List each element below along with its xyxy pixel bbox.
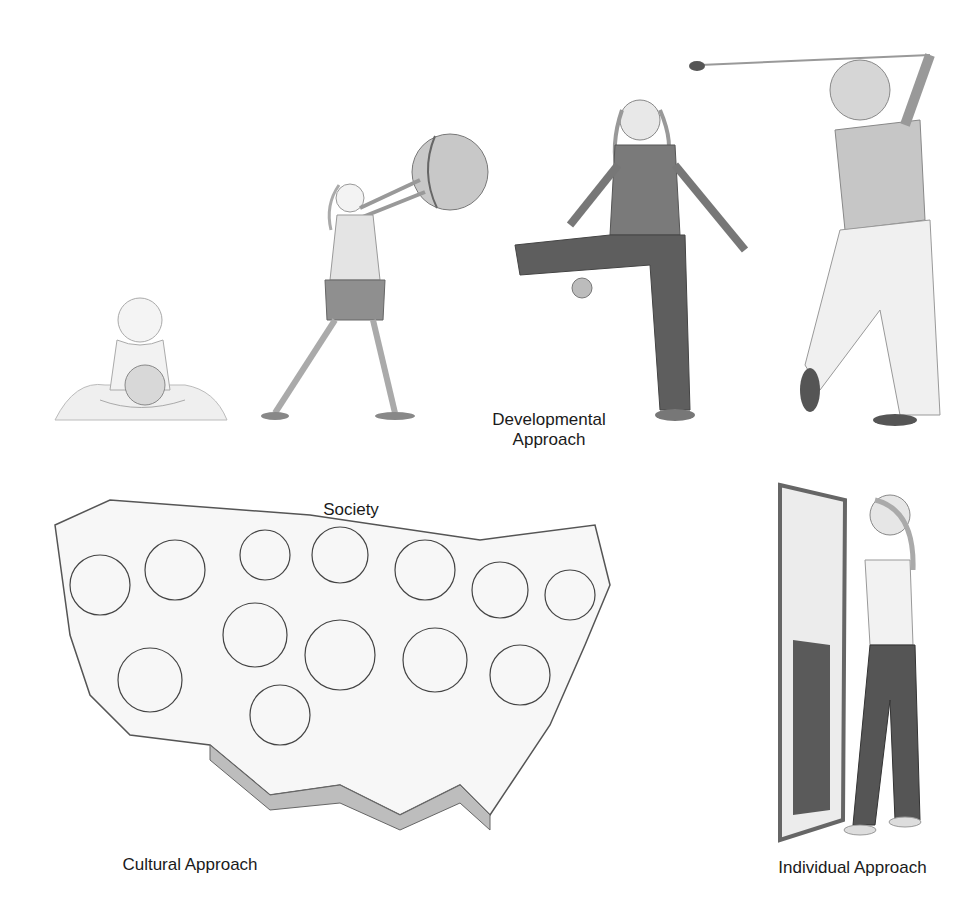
- cultural-approach-label: Cultural Approach: [100, 855, 280, 875]
- mirror-figure: [775, 480, 935, 850]
- developmental-approach-label: Developmental Approach: [474, 410, 624, 450]
- child-figure: [255, 130, 495, 430]
- society-label: Society: [306, 500, 396, 520]
- society-map-figure: [40, 485, 620, 850]
- infant-figure: [45, 280, 235, 430]
- developmental-label-line1: Developmental: [474, 410, 624, 430]
- individual-approach-label: Individual Approach: [755, 858, 950, 878]
- developmental-label-line2: Approach: [474, 430, 624, 450]
- adult-golfer-figure: [685, 20, 950, 430]
